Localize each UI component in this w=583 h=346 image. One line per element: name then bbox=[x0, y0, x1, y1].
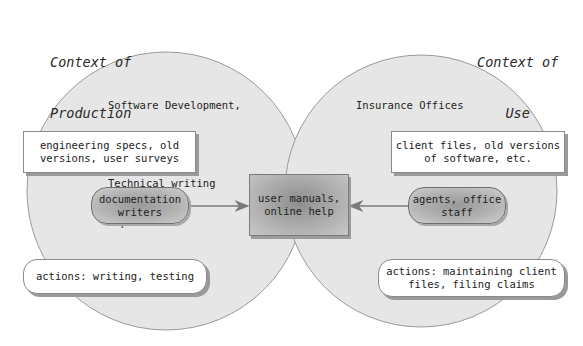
use-resources-line1: client files, old versions bbox=[396, 139, 560, 152]
context-of-use-title: Context of Use bbox=[477, 20, 558, 139]
use-resources-line2: of software, etc. bbox=[424, 152, 531, 165]
writers-line2: writers bbox=[118, 206, 162, 219]
production-title-line1: Context of bbox=[50, 54, 131, 71]
center-line2: online help bbox=[264, 205, 334, 218]
use-title-line2: Use bbox=[477, 105, 558, 122]
use-resources-box: client files, old versions of software, … bbox=[391, 131, 565, 173]
center-line1: user manuals, bbox=[258, 192, 340, 205]
staff-line2: staff bbox=[441, 206, 473, 219]
org-line1: Software Development, bbox=[108, 99, 241, 112]
staff-line1: agents, office bbox=[413, 193, 502, 206]
use-org-line1: Insurance Offices bbox=[356, 99, 463, 112]
documentation-writers-node: documentation writers bbox=[91, 187, 189, 224]
production-actions-box: actions: writing, testing bbox=[23, 259, 207, 294]
use-actions-line2: files, filing claims bbox=[408, 278, 534, 291]
production-actions-line1: actions: writing, testing bbox=[36, 270, 194, 283]
production-resources-box: engineering specs, old versions, user su… bbox=[23, 131, 196, 173]
user-manuals-node: user manuals, online help bbox=[249, 174, 349, 236]
use-organization-label: Insurance Offices bbox=[356, 73, 463, 125]
use-title-line1: Context of bbox=[477, 54, 558, 71]
use-actions-box: actions: maintaining client files, filin… bbox=[378, 259, 565, 297]
production-resources-line2: versions, user surveys bbox=[40, 152, 179, 165]
writers-line1: documentation bbox=[99, 193, 181, 206]
production-resources-line1: engineering specs, old bbox=[40, 139, 179, 152]
agents-office-staff-node: agents, office staff bbox=[408, 187, 506, 224]
use-actions-line1: actions: maintaining client bbox=[386, 265, 557, 278]
